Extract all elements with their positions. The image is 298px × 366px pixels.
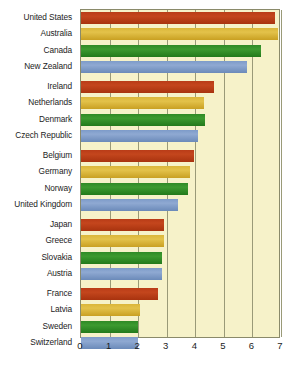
x-tick-label: 3 xyxy=(156,340,176,351)
bar xyxy=(81,219,164,231)
x-axis-tick-labels: 01234567 xyxy=(80,340,280,356)
x-tick-label: 5 xyxy=(213,340,233,351)
category-label: Greece xyxy=(45,234,72,246)
category-label: United Kingdom xyxy=(14,198,72,210)
bar xyxy=(81,28,278,40)
bar xyxy=(81,81,214,93)
category-label: Canada xyxy=(44,44,72,56)
category-label: Austria xyxy=(47,267,72,279)
bar xyxy=(81,252,162,264)
bar xyxy=(81,130,198,142)
bar xyxy=(81,321,138,333)
bar xyxy=(81,45,261,57)
category-label: Slovakia xyxy=(41,251,72,263)
category-label: United States xyxy=(23,11,72,23)
bar xyxy=(81,12,275,24)
category-label: Sweden xyxy=(43,320,72,332)
x-tick-label: 2 xyxy=(127,340,147,351)
bar xyxy=(81,150,194,162)
bar xyxy=(81,199,178,211)
category-label: Australia xyxy=(41,27,72,39)
category-label: Switzerland xyxy=(30,336,72,348)
bar xyxy=(81,61,247,73)
category-label: Denmark xyxy=(39,113,72,125)
gridline-7 xyxy=(281,10,282,337)
bars-layer xyxy=(81,10,279,337)
bar xyxy=(81,288,158,300)
x-tick-label: 7 xyxy=(270,340,290,351)
category-label: Netherlands xyxy=(28,96,72,108)
bar xyxy=(81,304,140,316)
category-axis-labels: United StatesAustraliaCanadaNew ZealandI… xyxy=(0,9,76,338)
category-label: Belgium xyxy=(43,149,72,161)
category-label: Norway xyxy=(44,182,72,194)
bar xyxy=(81,183,188,195)
category-label: Ireland xyxy=(47,80,72,92)
x-tick-label: 0 xyxy=(70,340,90,351)
category-label: France xyxy=(47,287,72,299)
category-label: Czech Republic xyxy=(15,129,72,141)
category-label: Germany xyxy=(39,165,72,177)
plot-area xyxy=(80,9,280,338)
bar-chart: United StatesAustraliaCanadaNew ZealandI… xyxy=(0,0,298,366)
x-tick-label: 4 xyxy=(184,340,204,351)
bar xyxy=(81,235,164,247)
bar xyxy=(81,268,162,280)
bar xyxy=(81,166,190,178)
category-label: Japan xyxy=(50,218,72,230)
category-label: New Zealand xyxy=(24,60,72,72)
bar xyxy=(81,114,205,126)
x-tick-label: 6 xyxy=(241,340,261,351)
bar xyxy=(81,97,204,109)
x-tick-label: 1 xyxy=(99,340,119,351)
category-label: Latvia xyxy=(50,303,72,315)
